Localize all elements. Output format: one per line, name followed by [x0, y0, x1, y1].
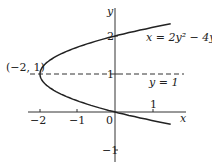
y-axis-label: y	[107, 6, 113, 17]
tick-label-y1: 1	[107, 69, 114, 80]
line-equation-label: y = 1	[149, 77, 178, 88]
vertex-label: (−2, 1)	[6, 62, 45, 73]
ticks	[40, 36, 153, 150]
tick-label-ym1: −1	[102, 145, 118, 156]
tick-label-xm2: −2	[30, 115, 46, 126]
tick-label-xm1: −1	[69, 115, 85, 126]
tick-label-x1: 1	[150, 99, 157, 110]
graph	[0, 0, 212, 168]
tick-label-origin: 0	[106, 115, 113, 126]
curve-equation-label: x = 2y² − 4y	[146, 32, 212, 43]
x-axis-label: x	[180, 113, 186, 124]
tick-label-y2: 2	[107, 31, 114, 42]
